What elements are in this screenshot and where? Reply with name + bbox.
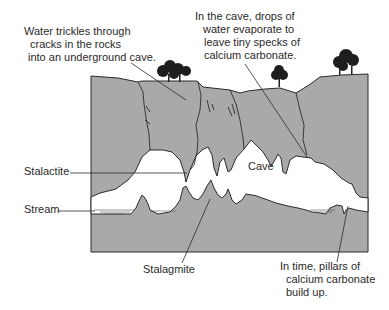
label-drops-evaporate: In the cave, drops of water evaporate to… [195,10,300,62]
tree-group-right [333,49,359,75]
label-pillars: In time, pillars of calcium carbonate bu… [280,260,375,299]
tree-single-middle [271,65,288,87]
label-stalagmite: Stalagmite [143,263,195,276]
tree-group-left [157,60,191,82]
label-cave: Cave [248,160,274,173]
label-stalactite: Stalactite [24,165,69,178]
rock-mass [91,74,368,252]
label-water-trickles: Water trickles through cracks in the roc… [24,25,156,64]
label-stream: Stream [24,203,59,216]
